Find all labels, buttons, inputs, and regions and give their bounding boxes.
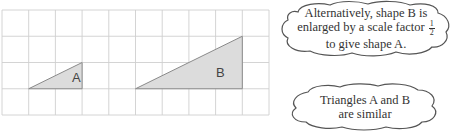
callout-line-1: Alternatively, shape B is bbox=[278, 6, 454, 20]
callout-line-3: to give shape A. bbox=[278, 37, 454, 51]
triangle-label-a: A bbox=[72, 70, 81, 85]
callout-similar: Triangles A and B are similar bbox=[286, 82, 444, 132]
callout-line-2-text: enlarged by a scale factor bbox=[297, 20, 424, 34]
similar-line-1: Triangles A and B bbox=[286, 93, 444, 107]
fraction-denominator: 2 bbox=[429, 29, 435, 37]
callout-line-2: enlarged by a scale factor12 bbox=[278, 20, 454, 37]
triangle-label-b: B bbox=[216, 65, 225, 80]
callout-scale-factor: Alternatively, shape B is enlarged by a … bbox=[278, 0, 454, 58]
similar-line-2: are similar bbox=[286, 107, 444, 121]
grid-diagram: AB bbox=[0, 0, 280, 135]
fraction-one-half: 12 bbox=[429, 20, 435, 37]
